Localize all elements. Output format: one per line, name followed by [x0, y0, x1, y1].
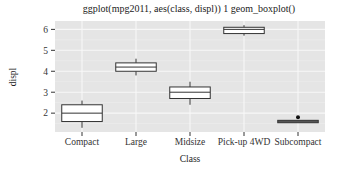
y-axis-title: displ — [8, 67, 18, 86]
x-axis: CompactLargeMidsizePick-up 4WDSubcompact — [65, 132, 322, 147]
x-axis-title: Class — [180, 154, 201, 164]
x-tick-label: Compact — [65, 137, 100, 147]
y-tick-label: 6 — [43, 25, 48, 35]
x-tick-label: Subcompact — [275, 137, 322, 147]
y-tick-label: 2 — [43, 108, 48, 118]
box-iqr — [170, 87, 211, 99]
y-tick-label: 4 — [43, 67, 48, 77]
box-iqr — [224, 27, 265, 33]
chart-title: ggplot(mpg2011, aes(class, displ)) 1 geo… — [83, 3, 295, 15]
y-tick-label: 5 — [43, 46, 48, 56]
y-tick-label: 3 — [43, 88, 48, 98]
y-axis: 23456 — [43, 25, 55, 119]
box-iqr — [278, 120, 319, 122]
outlier-point — [296, 115, 300, 119]
boxplot-chart: ggplot(mpg2011, aes(class, displ)) 1 geo… — [0, 0, 344, 172]
x-tick-label: Large — [125, 137, 147, 147]
x-tick-label: Pick-up 4WD — [218, 137, 271, 147]
x-tick-label: Midsize — [175, 137, 206, 147]
